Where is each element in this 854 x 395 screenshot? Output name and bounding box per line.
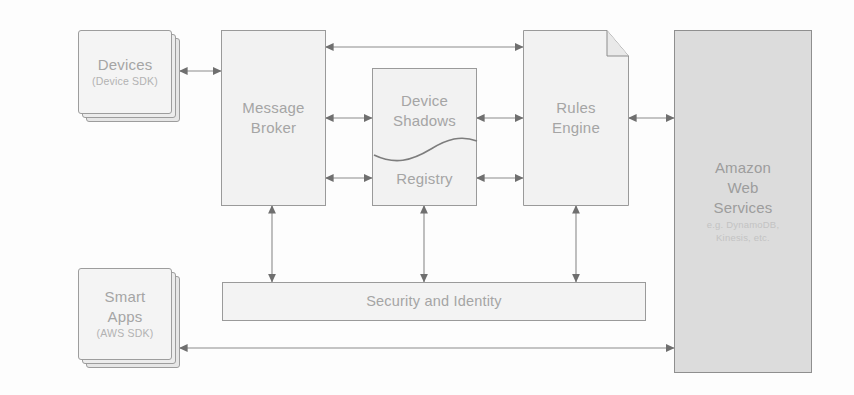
smart-apps-line2: Apps [108,307,143,327]
node-message-broker[interactable]: Message Broker [221,30,326,206]
smart-apps-subtitle: (AWS SDK) [97,327,154,341]
node-devices[interactable]: Devices (Device SDK) [78,30,180,122]
message-broker-line2: Broker [251,118,296,138]
smart-apps-line1: Smart [104,287,145,307]
aws-line3: Services [713,198,772,218]
devices-title: Devices [98,55,153,75]
aws-line2: Web [727,178,758,198]
devices-subtitle: (Device SDK) [92,75,158,89]
rules-engine-line2: Engine [552,118,600,138]
node-smart-apps[interactable]: Smart Apps (AWS SDK) [78,268,180,368]
device-shadows-line2: Shadows [393,111,456,131]
aws-line1: Amazon [715,158,771,178]
rules-engine-line1: Rules [556,98,595,118]
node-security-and-identity[interactable]: Security and Identity [222,282,646,321]
diagram-canvas: Devices (Device SDK) Message Broker Devi… [0,0,854,395]
security-identity-title: Security and Identity [366,292,502,311]
node-shadows-registry[interactable]: Device Shadows Registry [372,68,477,206]
message-broker-line1: Message [242,98,304,118]
aws-subtitle-line2: Kinesis, etc. [716,232,770,244]
registry-segment: Registry [373,159,476,199]
aws-subtitle-line1: e.g. DynamoDB, [707,219,780,231]
node-amazon-web-services[interactable]: Amazon Web Services e.g. DynamoDB, Kines… [674,30,812,373]
node-rules-engine[interactable]: Rules Engine [523,30,629,206]
device-shadows-segment: Device Shadows [373,75,476,147]
registry-title: Registry [396,169,453,189]
device-shadows-line1: Device [401,91,448,111]
